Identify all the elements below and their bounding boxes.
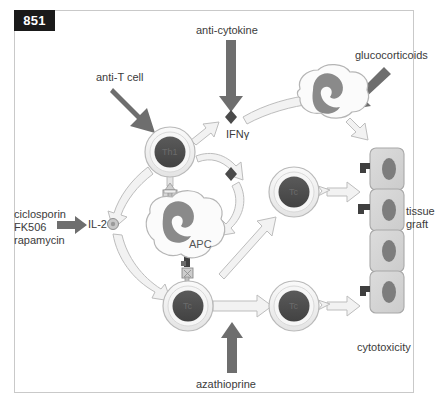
th1-curve-arrow [196, 153, 243, 180]
label-drugs: ciclosporin FK506 rapamycin [14, 208, 66, 247]
label-anti-cytokine: anti-cytokine [196, 24, 258, 37]
cell-label-tc-lower: Tc [183, 301, 192, 311]
ifn-gamma-marker-top [225, 110, 237, 124]
label-cytotoxicity: cytotoxicity [357, 341, 411, 354]
label-anti-t-cell: anti-T cell [96, 71, 143, 84]
cell-label-tc-upper: Tc [289, 187, 298, 197]
anti-cytokine-arrow [219, 40, 243, 112]
diagram-graphics [0, 0, 442, 418]
activated-macrophage-cell [297, 65, 368, 119]
cell-label-th1: Th1 [162, 147, 178, 157]
il2-marker [108, 219, 119, 230]
graft-cell-1 [360, 148, 404, 190]
tc-lower-to-tc-right-arrow [213, 295, 272, 317]
label-il2: IL-2 [88, 218, 107, 231]
tc-upper-to-graft-arrow [327, 182, 360, 202]
graft-cell-4 [360, 271, 404, 313]
label-glucocorticoids: glucocorticoids [355, 49, 428, 62]
apc-cell [146, 191, 224, 258]
graft-cell-2 [358, 189, 404, 231]
figure-number-badge: 851 [14, 10, 55, 31]
label-ifn-gamma: IFNγ [226, 128, 249, 141]
label-tissue-graft: tissue graft [406, 205, 435, 231]
tc-right-to-graft-arrow [327, 296, 360, 316]
figure-panel: 851 [0, 0, 442, 418]
label-apc: APC [189, 238, 212, 250]
cell-label-tc-right-lower: Tc [289, 301, 298, 311]
label-azathioprine: azathioprine [196, 378, 256, 391]
graft-cell-3 [370, 230, 404, 272]
azathioprine-arrow [221, 322, 243, 373]
th1-to-ifng-arrow [191, 122, 219, 145]
macrophage-to-graft-arrow [346, 118, 368, 140]
anti-t-cell-arrow [110, 88, 155, 133]
